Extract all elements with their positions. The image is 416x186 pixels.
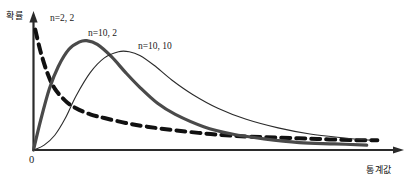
series-label-n10-2: n=10, 2 bbox=[88, 29, 117, 39]
origin-label: 0 bbox=[29, 155, 34, 166]
y-axis-arrowhead bbox=[29, 11, 37, 23]
y-axis-label: 확률 bbox=[6, 12, 23, 21]
density-curve-n-10-10 bbox=[34, 51, 371, 150]
x-axis-arrowhead bbox=[393, 146, 404, 153]
density-curve-n-2-2 bbox=[35, 30, 377, 141]
density-curves-group bbox=[34, 30, 378, 150]
plot-canvas bbox=[0, 0, 416, 186]
x-axis-label: 통계값 bbox=[366, 166, 392, 175]
figure-container: 확률 통계값 0 n=2, 2 n=10, 2 n=10, 10 bbox=[0, 0, 416, 186]
series-label-n2-2: n=2, 2 bbox=[50, 14, 74, 24]
axes-group bbox=[29, 11, 404, 154]
series-label-n10-10: n=10, 10 bbox=[138, 42, 172, 52]
